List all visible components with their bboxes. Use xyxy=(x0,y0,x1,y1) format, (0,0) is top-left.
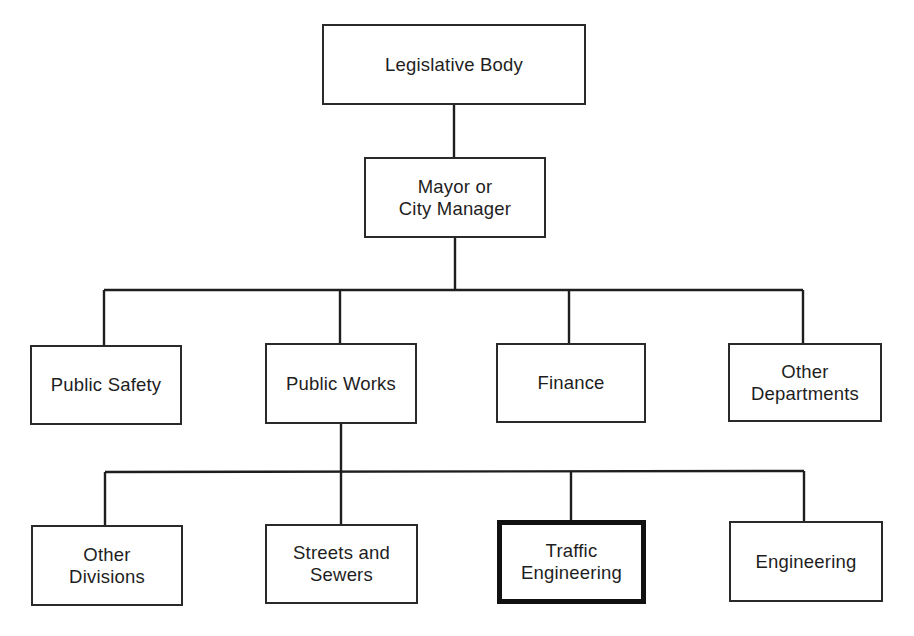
node-label-line-2: City Manager xyxy=(399,198,511,220)
node-label-line-2: Engineering xyxy=(521,562,622,584)
node-other-divisions: Other Divisions xyxy=(31,525,183,606)
node-traffic-engineering: Traffic Engineering xyxy=(497,520,646,604)
node-label: Finance xyxy=(537,372,604,394)
node-label-line-1: Other xyxy=(83,544,130,566)
node-label: Legislative Body xyxy=(385,54,523,76)
node-label-line-2: Divisions xyxy=(69,566,145,588)
node-legislative-body: Legislative Body xyxy=(322,24,586,105)
node-label-line-1: Streets and xyxy=(293,542,390,564)
node-mayor-or-city-manager: Mayor or City Manager xyxy=(364,157,546,238)
node-engineering: Engineering xyxy=(729,521,883,602)
connector-divisions-bus xyxy=(105,471,804,472)
node-label: Public Works xyxy=(286,373,396,395)
node-public-safety: Public Safety xyxy=(30,345,182,425)
node-streets-and-sewers: Streets and Sewers xyxy=(265,524,418,604)
node-label-line-2: Departments xyxy=(751,383,859,405)
node-label-line-1: Mayor or xyxy=(418,176,493,198)
node-label-line-2: Sewers xyxy=(310,564,373,586)
node-label-line-1: Traffic xyxy=(546,540,598,562)
node-finance: Finance xyxy=(496,343,646,423)
node-label: Public Safety xyxy=(51,374,162,396)
node-label: Engineering xyxy=(756,551,857,573)
node-other-departments: Other Departments xyxy=(728,343,882,422)
node-label-line-1: Other xyxy=(781,361,828,383)
node-public-works: Public Works xyxy=(265,343,417,424)
